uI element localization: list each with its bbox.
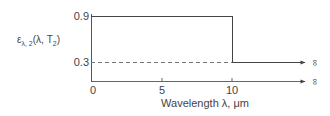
x-tick-label-0: 0 — [90, 84, 96, 96]
x-tick-label-10: 10 — [226, 84, 238, 96]
y-tick-label-0-3: 0.3 — [74, 56, 89, 68]
emissivity-chart: ∞ ∞ 0.9 0.3 0 5 10 Wavelength λ, μm ελ, … — [0, 0, 330, 116]
x-tick-label-5: 5 — [159, 84, 165, 96]
infinity-label-axis: ∞ — [310, 79, 320, 85]
y-axis-label: ελ, 2(λ, T2) — [17, 34, 60, 47]
x-axis-label: Wavelength λ, μm — [161, 97, 249, 109]
y-tick-label-0-9: 0.9 — [74, 10, 89, 22]
infinity-label-upper: ∞ — [310, 60, 320, 66]
